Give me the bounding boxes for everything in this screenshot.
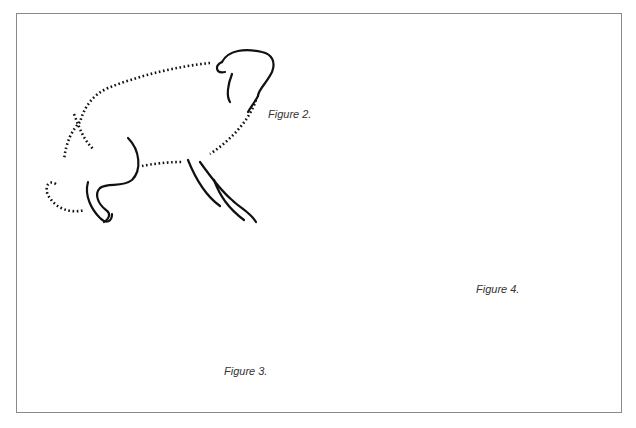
- illustration-canvas: [0, 0, 636, 428]
- figure-3-caption: Figure 3.: [224, 365, 267, 377]
- figure-2-drawing: [47, 50, 274, 222]
- figure-2-caption: Figure 2.: [268, 108, 311, 120]
- figure-4-caption: Figure 4.: [476, 283, 519, 295]
